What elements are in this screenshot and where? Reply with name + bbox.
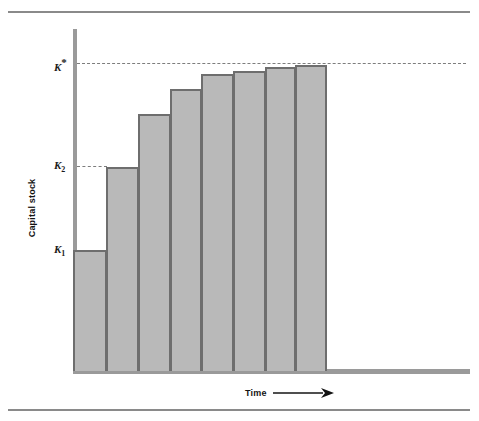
reference-line-k-star <box>77 63 466 64</box>
axis-value-label-k-1: K1 <box>54 244 65 258</box>
figure-container: K*K2K1 Capital stock Time <box>0 0 479 421</box>
x-axis-title-group: Time <box>245 387 335 399</box>
arrow-right-icon <box>273 387 335 399</box>
bar-period-8 <box>295 65 327 371</box>
bar-period-5 <box>201 74 234 371</box>
plot-area: K*K2K1 Capital stock Time <box>0 0 479 421</box>
axis-value-label-k-2: K2 <box>54 160 65 174</box>
y-axis-title: Capital stock <box>27 158 37 258</box>
bar-period-3 <box>138 114 171 371</box>
bar-period-4 <box>170 89 202 371</box>
x-axis-title: Time <box>245 388 267 398</box>
bar-period-1 <box>73 250 107 371</box>
bar-period-6 <box>233 71 266 371</box>
bar-period-7 <box>265 67 296 371</box>
reference-line-k-2 <box>77 166 107 167</box>
bar-period-2 <box>106 167 139 371</box>
axis-value-label-k-star: K* <box>54 57 67 73</box>
